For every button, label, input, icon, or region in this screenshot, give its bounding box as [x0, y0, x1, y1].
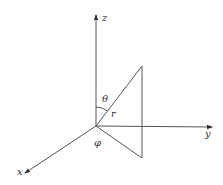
y-axis [96, 126, 212, 127]
radius-label: r [111, 108, 117, 119]
y-axis-label: y [204, 128, 211, 139]
x-axis-label: x [17, 166, 23, 177]
xy-projection-line [96, 126, 142, 158]
theta-arc [96, 107, 108, 111]
phi-label: φ [94, 137, 101, 148]
z-axis-label: z [101, 12, 108, 23]
x-axis [25, 126, 96, 173]
spherical-coordinates-diagram: z y x θ r φ [0, 0, 223, 185]
theta-label: θ [102, 93, 108, 104]
